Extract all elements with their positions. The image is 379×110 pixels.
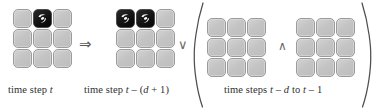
grid-cell [13,29,32,48]
grid-time-step-t-minus-d-plus-1 [116,9,175,68]
grid-cell [227,38,246,57]
caption-time-steps-range: time steps t – d to t – 1 [224,84,322,95]
grid-cell [207,18,226,37]
grid-cell-occupied [116,9,135,28]
grid-cell [227,58,246,77]
grid-cell [156,29,175,48]
grid-cell [336,58,355,77]
and-operator: ∧ [278,40,287,52]
grid-cell [13,9,32,28]
grid-cell [116,29,135,48]
grid-cell [247,38,266,57]
grid-cell [156,49,175,68]
grid-cell [136,29,155,48]
grid-cell [207,58,226,77]
agent-swirl-icon [117,10,134,27]
grid-cell [336,18,355,37]
grid-time-step-t [13,9,72,68]
caption-time-step-t-minus-d-plus-1: time step t – (d + 1) [84,84,169,95]
grid-cell [116,49,135,68]
grid-cell [316,38,335,57]
grid-cell [247,18,266,37]
or-operator: ∨ [178,38,188,51]
grid-cell [296,18,315,37]
agent-swirl-icon [137,10,154,27]
grid-cell-occupied [33,9,52,28]
paren-close [360,0,374,110]
grid-cell [207,38,226,57]
grid-history-right [296,18,355,77]
implies-operator: ⇒ [79,37,92,52]
grid-cell [53,9,72,28]
grid-cell [316,18,335,37]
grid-cell [227,18,246,37]
grid-cell [136,49,155,68]
paren-open [192,0,206,110]
grid-cell [156,9,175,28]
grid-cell [33,29,52,48]
grid-cell [296,38,315,57]
grid-cell-occupied [136,9,155,28]
agent-swirl-icon [34,10,51,27]
grid-cell [33,49,52,68]
grid-cell [53,49,72,68]
caption-time-step-t: time step t [8,84,53,95]
grid-cell [53,29,72,48]
grid-cell [336,38,355,57]
grid-cell [316,58,335,77]
figure-canvas: time step t ⇒ time step t – (d + 1) ∨ [0,0,379,110]
grid-cell [296,58,315,77]
grid-cell [247,58,266,77]
grid-history-left [207,18,266,77]
grid-cell [13,49,32,68]
